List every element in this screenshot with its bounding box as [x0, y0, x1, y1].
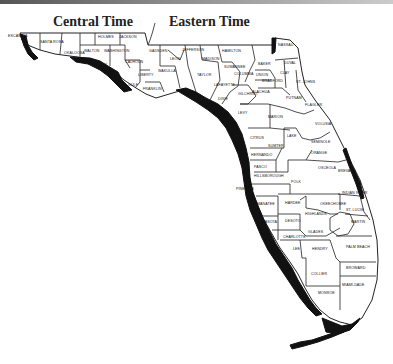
county-indian-river: INDIAN RIVER — [342, 191, 368, 195]
county-alachua: ALACHUA — [252, 90, 270, 94]
county-union: UNION — [256, 73, 268, 77]
county-bradford: BRADFORD — [262, 79, 283, 83]
county-leon: LEON — [170, 57, 180, 61]
county-walton: WALTON — [84, 49, 100, 53]
county-lafayette: LAFAYETTE — [214, 83, 236, 87]
county-jefferson: JEFFERSON — [182, 48, 205, 52]
county-okeechobee: OKEECHOBEE — [320, 202, 347, 206]
county-santa-rosa: SANTA ROSA — [40, 40, 64, 44]
county-pasco: PASCO — [254, 165, 267, 169]
county-hillsborough: HILLSBOROUGH — [254, 174, 284, 178]
county-baker: BAKER — [258, 62, 271, 66]
county-hardee: HARDEE — [285, 201, 301, 205]
county-st-johns: ST. JOHNS — [296, 80, 316, 84]
county-duval: DUVAL — [284, 61, 296, 65]
county-gulf: GULF — [128, 83, 139, 87]
county-lake: LAKE — [287, 134, 297, 138]
florida-keys — [290, 328, 346, 349]
county-broward: BROWARD — [346, 266, 366, 270]
county-jackson: JACKSON — [119, 35, 137, 39]
county-madison: MADISON — [202, 57, 220, 61]
county-charlotte: CHARLOTTE — [283, 235, 306, 239]
county-dixie: DIXIE — [218, 97, 228, 101]
county-volusia: VOLUSIA — [315, 122, 332, 126]
county-sumter: SUMTER — [268, 144, 284, 148]
county-wakulla: WAKULLA — [158, 69, 176, 73]
county-pinellas: PINELLAS — [236, 187, 254, 191]
county-franklin: FRANKLIN — [143, 87, 162, 91]
county-lee: LEE — [293, 247, 301, 251]
county-columbia: COLUMBIA — [234, 72, 254, 76]
county-miami-dade: MIAMI-DADE — [342, 283, 365, 287]
county-sarasota: SARASOTA — [257, 220, 278, 224]
county-marion: MARION — [268, 115, 283, 119]
county-palm-beach: PALM BEACH — [346, 245, 370, 249]
county-escambia: ESCAMBIA — [8, 34, 28, 38]
county-glades: GLADES — [308, 230, 324, 234]
county-holmes: HOLMES — [98, 35, 114, 39]
county-martin: MARTIN — [351, 220, 366, 224]
county-citrus: CITRUS — [250, 136, 264, 140]
county-monroe: MONROE — [318, 291, 335, 295]
county-flagler: FLAGLER — [305, 103, 322, 107]
county-okaloosa: OKALOOSA — [64, 51, 85, 55]
county-suwannee: SUWANNEE — [224, 65, 246, 69]
county-clay: CLAY — [280, 71, 290, 75]
county-liberty: LIBERTY — [138, 73, 154, 77]
county-seminole: SEMINOLE — [311, 140, 331, 144]
county-taylor: TAYLOR — [197, 73, 212, 77]
county-putnam: PUTNAM — [286, 96, 302, 100]
county-manatee: MANATEE — [257, 202, 275, 206]
county-hamilton: HAMILTON — [222, 49, 241, 53]
county-hernando: HERNANDO — [251, 153, 272, 157]
county-nassau: NASSAU — [278, 43, 294, 47]
county-calhoun: CALHOUN — [125, 60, 144, 64]
county-levy: LEVY — [238, 111, 248, 115]
nassau-inlet — [272, 38, 276, 54]
county-highlands: HIGHLANDS — [305, 212, 327, 216]
county-collier: COLLIER — [311, 272, 327, 276]
county-hendry: HENDRY — [312, 247, 328, 251]
county-brevard: BREVARD — [338, 169, 356, 173]
county-polk: POLK — [291, 180, 301, 184]
county-st-lucie: ST. LUCIE — [346, 208, 364, 212]
florida-county-map: ESCAMBIA SANTA ROSA OKALOOSA WALTON HOLM… — [0, 0, 393, 364]
county-gadsden: GADSDEN — [149, 49, 168, 53]
county-orange: ORANGE — [311, 151, 328, 155]
county-desoto: DESOTO — [285, 219, 301, 223]
county-bay: BAY — [100, 63, 108, 67]
county-washington: WASHINGTON — [104, 49, 130, 53]
county-osceola: OSCEOLA — [318, 166, 337, 170]
